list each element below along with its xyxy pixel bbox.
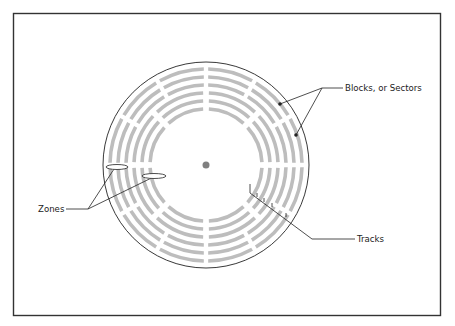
sector-marker-dot xyxy=(278,102,282,106)
sector-block xyxy=(256,83,288,115)
blocks-leader-line xyxy=(280,88,322,104)
sector-block xyxy=(124,215,156,247)
blocks-sectors-label: Blocks, or Sectors xyxy=(345,83,422,93)
tracks-label: Tracks xyxy=(356,234,384,244)
zone-marker-ellipse xyxy=(142,174,166,179)
sector-block xyxy=(256,215,288,247)
sector-marker-dot xyxy=(294,133,298,137)
zones-label: Zones xyxy=(38,204,65,214)
disk-diagram: Blocks, or Sectors Tracks Zones xyxy=(0,0,455,326)
diagram-frame xyxy=(14,14,441,316)
sector-block xyxy=(124,83,156,115)
zone-marker-ellipse xyxy=(106,165,128,170)
blocks-leader-line xyxy=(296,88,322,135)
spindle-icon xyxy=(203,162,210,169)
